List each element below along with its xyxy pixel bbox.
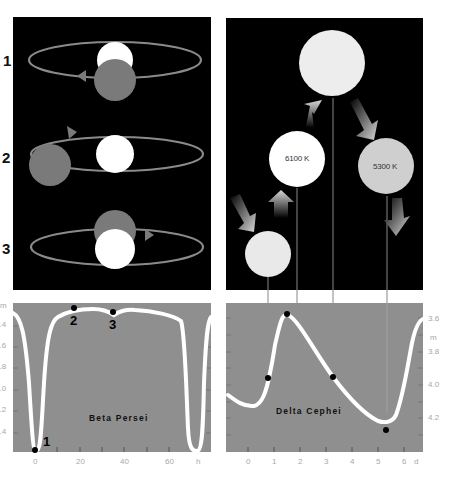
pulsating-star-panel: 6100 K 5300 K (226, 18, 423, 290)
y-tick-label: 3.6 (428, 314, 439, 323)
x-tick-label: 1 (272, 457, 276, 466)
x-axis-unit: d (414, 457, 418, 466)
star-small-min (245, 231, 291, 277)
y-axis-unit-right: m (430, 333, 437, 342)
point-label-2: 2 (70, 313, 77, 328)
y-tick-label: 4.0 (428, 380, 439, 389)
y-tick-label: 2.4 (0, 320, 6, 329)
x-tick-label: 20 (76, 457, 85, 466)
phase-label-1: 1 (3, 52, 11, 69)
phase-point (284, 311, 290, 317)
expand-arrow-icon (268, 190, 294, 218)
delta-cephei-plot (226, 303, 423, 452)
point-label-1: 1 (43, 434, 50, 449)
x-tick-label: 0 (246, 457, 250, 466)
eclipsing-binary-diagram (13, 17, 211, 290)
x-tick-label: 5 (376, 457, 380, 466)
pulsating-star-diagram (226, 18, 423, 290)
x-tick-marks (35, 447, 192, 452)
x-tick-label: 0 (33, 457, 37, 466)
contract-arrow-icon (384, 198, 410, 236)
y-tick-label: 2.8 (0, 362, 6, 371)
y-axis-unit-left: m (0, 301, 7, 310)
delta-cephei-light-curve-chart: Delta Cephei (226, 303, 423, 452)
contract-arrow-icon (350, 98, 378, 140)
orbit-direction-arrow-icon (67, 126, 77, 139)
orbit-direction-arrow-icon (77, 70, 86, 82)
phase-3-orbit-group (31, 210, 203, 269)
y-tick-label: 4.2 (428, 413, 439, 422)
phase-2-orbit-group (29, 126, 203, 186)
eclipsing-binary-panel (13, 17, 211, 290)
point-label-3: 3 (109, 317, 116, 332)
star-large-max (299, 30, 365, 96)
phase-point (383, 427, 389, 433)
phase-label-3: 3 (2, 240, 10, 257)
x-tick-label: 4 (350, 457, 354, 466)
x-tick-marks (248, 447, 404, 452)
x-tick-label: 3 (324, 457, 328, 466)
x-tick-label: 6 (402, 457, 406, 466)
x-tick-label: 2 (298, 457, 302, 466)
temperature-label-hot: 6100 K (285, 154, 309, 163)
primary-star (96, 135, 134, 173)
phase-point-1 (32, 447, 38, 453)
x-tick-label: 40 (120, 457, 129, 466)
phase-point (330, 374, 336, 380)
y-tick-label: 3.2 (0, 405, 6, 414)
phase-point-2 (71, 305, 77, 311)
y-tick-label: 3.4 (0, 427, 6, 436)
companion-star (94, 59, 136, 101)
phase-point-3 (110, 309, 116, 315)
temperature-label-cool: 5300 K (373, 162, 397, 171)
x-tick-label: 60 (165, 457, 174, 466)
primary-star (95, 229, 135, 269)
chart-title-beta-persei: Beta Persei (89, 413, 149, 423)
y-tick-label: 3.0 (0, 384, 6, 393)
phase-label-2: 2 (2, 149, 10, 166)
contract-arrow-icon (230, 194, 256, 232)
x-axis-unit: h (196, 457, 200, 466)
companion-star (29, 144, 71, 186)
beta-persei-light-curve-chart: 1 2 3 Beta Persei (13, 303, 211, 452)
phase-1-orbit-group (29, 42, 201, 101)
phase-point (265, 375, 271, 381)
expand-arrow-icon (304, 100, 322, 128)
y-tick-label: 3.8 (428, 347, 439, 356)
chart-title-delta-cephei: Delta Cephei (276, 406, 342, 416)
y-tick-label: 2.6 (0, 341, 6, 350)
